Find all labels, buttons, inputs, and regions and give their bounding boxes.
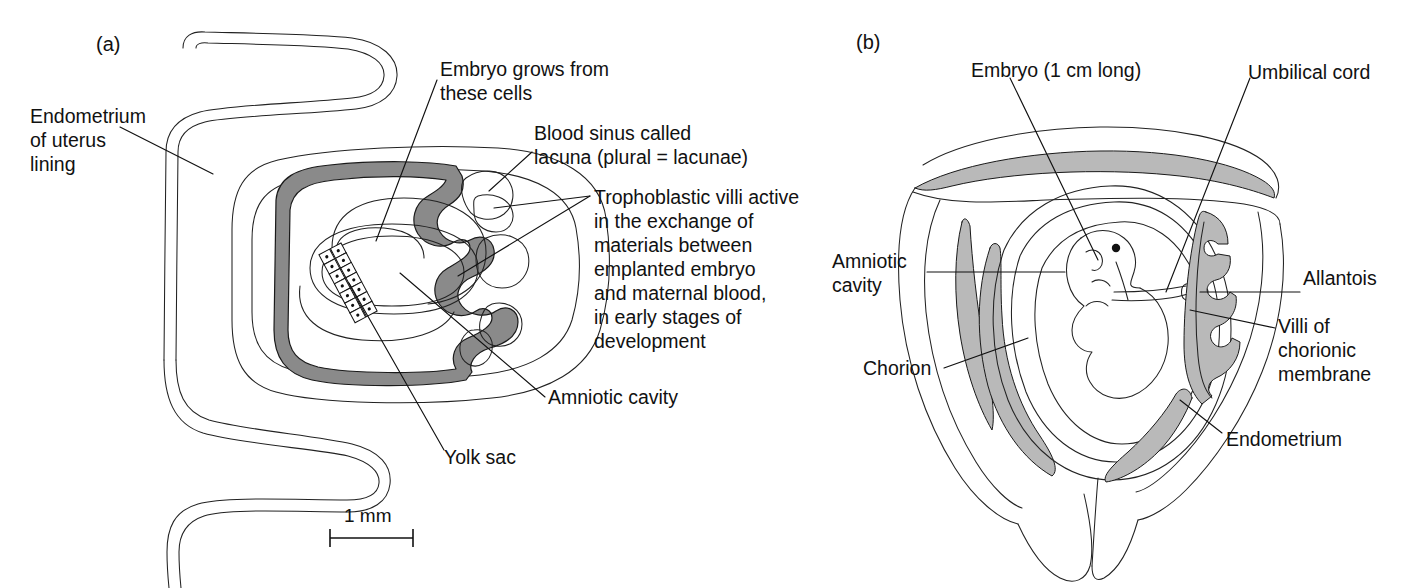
label-endometrium-b: Endometrium	[1226, 428, 1342, 450]
label-endometrium-line3: lining	[30, 153, 76, 175]
label-villi-line1: Villi of	[1278, 315, 1330, 337]
label-lacuna-line2: lacuna (plural = lacunae)	[534, 146, 748, 168]
label-villi-line2: chorionic	[1278, 339, 1356, 361]
implantation-figure: (a) Endometrium of uterus lining Embryo …	[0, 0, 1410, 588]
label-umbilical-cord: Umbilical cord	[1248, 61, 1370, 83]
label-embryo-cells-line2: these cells	[440, 82, 532, 104]
label-amniotic-cavity-a: Amniotic cavity	[548, 386, 678, 408]
label-trophoblast-line6: in early stages of	[594, 306, 742, 328]
label-trophoblast-line4: emplanted embryo	[594, 258, 756, 280]
label-endometrium-line2: of uterus	[30, 129, 106, 151]
label-amniotic-cavity-b-line2: cavity	[832, 274, 882, 296]
panel-a-tag: (a)	[96, 33, 120, 55]
figure-canvas: (a) Endometrium of uterus lining Embryo …	[0, 0, 1410, 588]
label-trophoblast-line2: in the exchange of	[594, 210, 754, 232]
label-amniotic-cavity-b-line1: Amniotic	[832, 250, 907, 272]
label-yolk-sac: Yolk sac	[444, 446, 516, 468]
label-trophoblast-line3: materials between	[594, 234, 752, 256]
label-chorion: Chorion	[863, 357, 931, 379]
embryo-eye	[1112, 244, 1120, 252]
label-embryo-b: Embryo (1 cm long)	[971, 59, 1141, 81]
label-trophoblast-line7: development	[594, 330, 706, 352]
label-trophoblast-line1: Trophoblastic villi active	[594, 186, 799, 208]
label-lacuna-line1: Blood sinus called	[534, 122, 691, 144]
label-trophoblast-line5: and maternal blood,	[594, 282, 766, 304]
panel-b-tag: (b)	[856, 31, 880, 53]
label-villi-line3: membrane	[1278, 363, 1371, 385]
label-scale-bar: 1 mm	[344, 505, 392, 526]
label-endometrium-line1: Endometrium	[30, 105, 146, 127]
label-embryo-cells-line1: Embryo grows from	[440, 58, 609, 80]
label-allantois: Allantois	[1303, 267, 1377, 289]
